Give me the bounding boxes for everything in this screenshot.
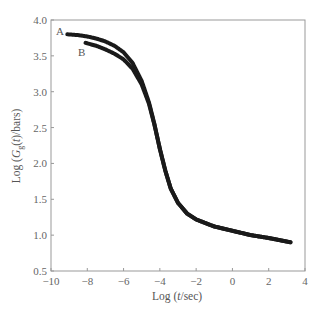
plot-frame — [51, 20, 305, 271]
axis-ticks: −10−8−6−4−20240.51.01.52.02.53.03.54.0 — [33, 14, 308, 287]
x-tick-label: −6 — [118, 275, 130, 287]
series-a — [67, 34, 290, 242]
y-axis-title: Log (Gg(t)/bars) — [10, 109, 25, 184]
curve-label-a: A — [56, 25, 64, 37]
y-tick-label: 1.5 — [33, 193, 47, 205]
series-b — [86, 43, 291, 242]
curve-label-b: B — [78, 46, 85, 58]
x-tick-label: −2 — [190, 275, 202, 287]
y-tick-label: 2.0 — [33, 157, 47, 169]
x-tick-label: −8 — [81, 275, 93, 287]
y-tick-label: 2.5 — [33, 122, 47, 134]
x-tick-label: 4 — [302, 275, 308, 287]
y-tick-label: 3.5 — [33, 50, 47, 62]
y-tick-label: 4.0 — [33, 14, 47, 26]
x-tick-label: −4 — [154, 275, 166, 287]
x-axis-title: Log (t/sec) — [152, 290, 202, 303]
x-tick-label: 0 — [230, 275, 236, 287]
chart: −10−8−6−4−20240.51.01.52.02.53.03.54.0 A… — [0, 0, 321, 316]
x-tick-label: 2 — [266, 275, 272, 287]
data-series — [67, 34, 290, 242]
y-tick-label: 1.0 — [33, 229, 47, 241]
y-tick-label: 3.0 — [33, 86, 47, 98]
y-tick-label: 0.5 — [33, 265, 47, 277]
